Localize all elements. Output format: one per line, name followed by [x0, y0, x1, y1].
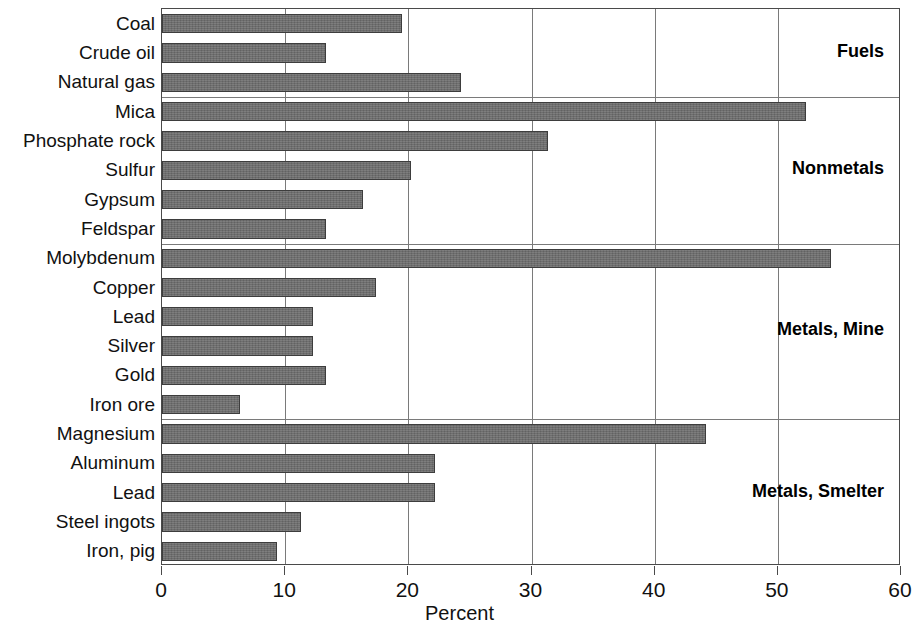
x-tick-mark — [654, 566, 655, 575]
bar — [162, 424, 706, 443]
category-label: Crude oil — [79, 43, 155, 62]
bar — [162, 278, 376, 297]
x-tick-mark — [900, 566, 901, 575]
category-label: Molybdenum — [46, 248, 155, 267]
bar — [162, 366, 326, 385]
x-tick-label: 50 — [747, 579, 807, 600]
x-tick-mark — [777, 566, 778, 575]
category-label: Iron, pig — [86, 541, 155, 560]
x-tick-label: 30 — [501, 579, 561, 600]
bar — [162, 249, 831, 268]
category-label: Sulfur — [105, 160, 155, 179]
bar — [162, 131, 548, 150]
category-label: Copper — [93, 278, 155, 297]
bar — [162, 454, 435, 473]
category-label: Iron ore — [90, 395, 155, 414]
x-tick-mark — [161, 566, 162, 575]
category-label: Silver — [107, 336, 155, 355]
category-label: Gold — [115, 365, 155, 384]
x-tick-mark — [284, 566, 285, 575]
category-label: Aluminum — [71, 453, 155, 472]
category-label: Gypsum — [84, 190, 155, 209]
x-tick-label: 60 — [870, 579, 919, 600]
bar — [162, 102, 806, 121]
category-label: Phosphate rock — [23, 131, 155, 150]
x-tick-label: 40 — [624, 579, 684, 600]
category-label: Lead — [113, 483, 155, 502]
bar — [162, 219, 326, 238]
group-separator — [162, 419, 899, 420]
category-label: Steel ingots — [56, 512, 155, 531]
category-label: Mica — [115, 102, 155, 121]
bar — [162, 395, 240, 414]
category-label: Coal — [116, 14, 155, 33]
x-tick-mark — [407, 566, 408, 575]
category-label: Magnesium — [57, 424, 155, 443]
x-tick-mark — [531, 566, 532, 575]
bar — [162, 190, 363, 209]
category-label: Lead — [113, 307, 155, 326]
bar — [162, 512, 301, 531]
x-tick-label: 0 — [131, 579, 191, 600]
group-separator — [162, 244, 899, 245]
category-label: Natural gas — [58, 72, 155, 91]
x-tick-label: 20 — [377, 579, 437, 600]
x-tick-label: 10 — [254, 579, 314, 600]
bar — [162, 14, 402, 33]
bar — [162, 73, 461, 92]
bar — [162, 542, 277, 561]
bar-chart: 0102030405060 FuelsNonmetalsMetals, Mine… — [0, 0, 919, 635]
x-axis-title: Percent — [0, 602, 919, 625]
category-label: Feldspar — [81, 219, 155, 238]
group-separator — [162, 97, 899, 98]
